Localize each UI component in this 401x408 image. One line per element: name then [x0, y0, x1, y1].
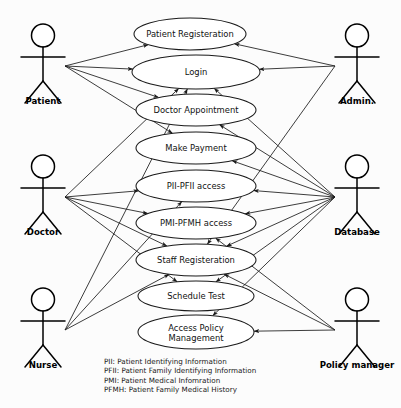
use-case-label: Staff Registeration: [157, 255, 235, 265]
actor-nurse[interactable]: Nurse: [21, 288, 65, 370]
actor-admin[interactable]: Admin.: [335, 24, 379, 106]
use-case-access-policy-management[interactable]: Access PolicyManagement: [138, 315, 254, 349]
use-case-label: Schedule Test: [167, 291, 225, 301]
legend-line: PII: Patient Identifying Information: [104, 357, 227, 366]
actor-patient[interactable]: Patient: [21, 24, 65, 106]
actor-label: Policy manager: [320, 360, 395, 370]
use-case-ellipses: Patient RegisterationLoginDoctor Appoint…: [132, 18, 260, 349]
use-case-login[interactable]: Login: [132, 55, 260, 89]
association-policy-manager-to-access-policy-management: [254, 330, 335, 331]
use-case-pmi-pfmh-access[interactable]: PMI-PFMH access: [136, 207, 256, 239]
actor-head-icon: [32, 24, 55, 47]
use-case-label: PMI-PFMH access: [160, 218, 232, 228]
use-case-label: Make Payment: [165, 143, 227, 153]
actor-head-icon: [346, 155, 369, 178]
actor-label: Nurse: [29, 360, 58, 370]
association-patient-to-login: [65, 66, 133, 69]
association-database-to-pii-pfii-access: [254, 191, 335, 197]
use-case-pii-pfii-access[interactable]: PII-PFII access: [136, 170, 256, 202]
actor-head-icon: [346, 288, 369, 311]
use-case-make-payment[interactable]: Make Payment: [136, 132, 256, 164]
use-case-staff-registeration[interactable]: Staff Registeration: [136, 244, 256, 276]
association-doctor-to-pii-pfii-access: [65, 191, 139, 197]
actor-label: Patient: [26, 96, 61, 106]
use-case-label: Doctor Appointment: [154, 105, 240, 115]
use-case-diagram: Patient RegisterationLoginDoctor Appoint…: [0, 0, 401, 408]
actor-label: Database: [334, 227, 380, 237]
legend-line: PFII: Patient Family Identifying Informa…: [104, 366, 256, 375]
use-case-label: Patient Registeration: [146, 29, 233, 39]
actor-head-icon: [32, 288, 55, 311]
diagram-canvas: Patient RegisterationLoginDoctor Appoint…: [0, 0, 401, 408]
actor-database[interactable]: Database: [334, 155, 380, 237]
association-doctor-to-pmi-pfmh-access: [65, 197, 148, 213]
use-case-label: PII-PFII access: [167, 181, 226, 191]
association-database-to-pmi-pfmh-access: [245, 197, 335, 214]
actor-label: Doctor: [27, 227, 60, 237]
use-case-patient-registeration[interactable]: Patient Registeration: [134, 18, 246, 50]
use-case-label-line2: Management: [168, 333, 224, 343]
association-admin-to-login: [259, 66, 335, 69]
legend-line: PFMH: Patient Family Medical History: [104, 385, 238, 394]
use-case-label: Access Policy: [168, 323, 223, 333]
actor-head-icon: [346, 24, 369, 47]
actor-doctor[interactable]: Doctor: [21, 155, 65, 237]
use-case-label: Login: [185, 67, 208, 77]
use-case-doctor-appointment[interactable]: Doctor Appointment: [136, 94, 256, 126]
actor-head-icon: [32, 155, 55, 178]
actor-label: Admin.: [340, 96, 374, 106]
actor-policy-manager[interactable]: Policy manager: [320, 288, 395, 370]
association-patient-to-patient-registeration: [65, 45, 148, 66]
use-case-schedule-test[interactable]: Schedule Test: [138, 281, 254, 311]
legend-block: PII: Patient Identifying InformationPFII…: [104, 357, 256, 394]
legend-line: PMI: Patient Medical Infomration: [104, 376, 220, 385]
